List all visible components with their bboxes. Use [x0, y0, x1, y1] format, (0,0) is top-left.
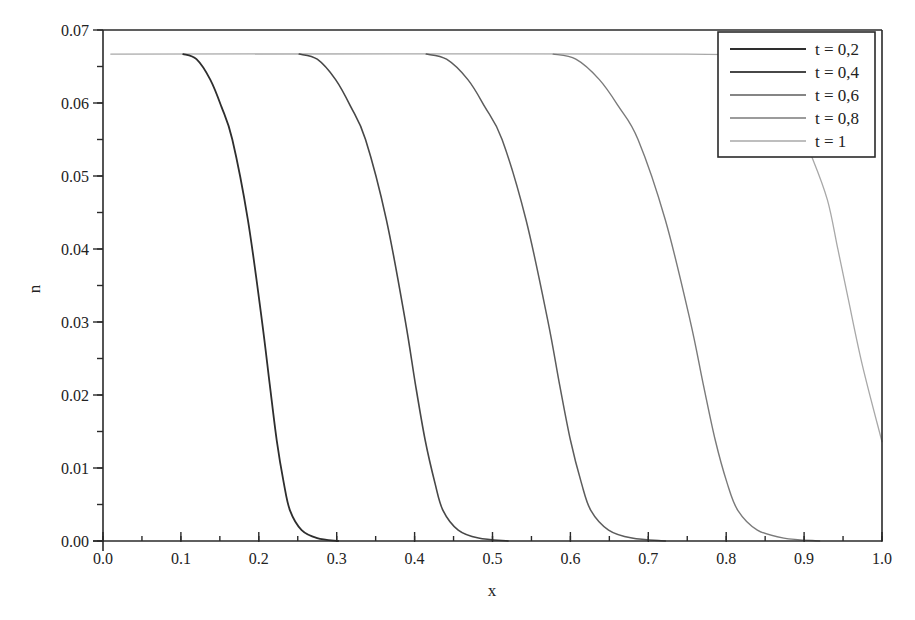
x-tick-label: 0.9 — [794, 550, 814, 567]
x-tick-label: 0.7 — [638, 550, 658, 567]
x-tick-label: 0.5 — [483, 550, 503, 567]
y-axis-title: n — [25, 284, 44, 293]
y-tick-label: 0.04 — [61, 241, 89, 258]
y-tick-label: 0.01 — [61, 460, 89, 477]
y-tick-label: 0.00 — [61, 533, 89, 550]
legend-label: t = 0,8 — [815, 109, 859, 128]
y-tick-label: 0.07 — [61, 22, 89, 39]
x-tick-label: 0.2 — [249, 550, 269, 567]
x-tick-label: 0.3 — [327, 550, 347, 567]
x-tick-label: 0.1 — [171, 550, 191, 567]
y-axis-ticks: 0.000.010.020.030.040.050.060.07 — [61, 22, 103, 550]
x-tick-label: 0.6 — [560, 550, 580, 567]
y-tick-label: 0.02 — [61, 387, 89, 404]
legend-label: t = 0,6 — [815, 86, 859, 105]
legend-label: t = 1 — [815, 132, 846, 151]
x-tick-label: 0.0 — [93, 550, 113, 567]
legend-label: t = 0,2 — [815, 40, 859, 59]
line-chart: 0.00.10.20.30.40.50.60.70.80.91.0 0.000.… — [0, 0, 915, 620]
x-axis-title: x — [488, 581, 497, 600]
x-tick-label: 0.4 — [405, 550, 425, 567]
y-tick-label: 0.03 — [61, 314, 89, 331]
x-tick-label: 0.8 — [716, 550, 736, 567]
y-tick-label: 0.06 — [61, 95, 89, 112]
y-tick-label: 0.05 — [61, 168, 89, 185]
legend-label: t = 0,4 — [815, 63, 860, 82]
legend: t = 0,2t = 0,4t = 0,6t = 0,8t = 1 — [718, 32, 875, 157]
x-tick-label: 1.0 — [872, 550, 892, 567]
